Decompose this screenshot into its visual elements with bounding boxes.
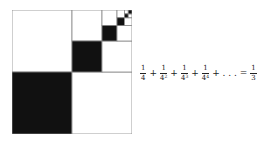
plus-sign: + xyxy=(191,68,199,78)
term-1: 14 xyxy=(140,65,146,82)
term-4: 144 xyxy=(202,65,209,82)
result: 13 xyxy=(250,65,256,82)
series-formula: 14 + 142 + 143 + 144 + . . . = 13 xyxy=(139,62,258,84)
term-2: 142 xyxy=(160,65,167,82)
plus-sign: + xyxy=(170,68,178,78)
ellipsis-equals: + . . . = xyxy=(212,68,247,78)
plus-sign: + xyxy=(149,68,157,78)
term-3: 143 xyxy=(181,65,188,82)
nested-squares-diagram xyxy=(12,10,132,134)
